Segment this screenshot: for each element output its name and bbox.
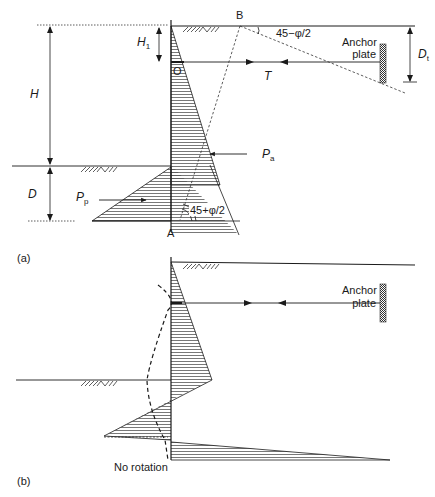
anchor-label-b-1: Anchor (342, 285, 376, 296)
label-h1: H1 (137, 36, 150, 51)
soil-hatch-dredge (81, 167, 117, 172)
label-h1-sub: 1 (146, 42, 150, 51)
point-a-label: A (167, 228, 174, 239)
anchor-label-a-1: Anchor (342, 37, 376, 48)
soil-hatch-top (183, 27, 219, 32)
soil-hatch-b-dredge (81, 381, 117, 386)
label-t: T (264, 70, 271, 82)
angle-label-bottom: 45+φ/2 (189, 205, 226, 216)
diagram-graphics (0, 0, 435, 497)
no-rotation-label: No rotation (114, 462, 168, 473)
angle-label-top: 45−φ/2 (275, 28, 312, 39)
point-o-label: O (173, 66, 182, 77)
label-pp-main: P (76, 190, 84, 204)
angle-arc-top (258, 27, 259, 34)
panel-a-label: (a) (17, 253, 30, 264)
tie-rod-arrow-right (246, 59, 254, 65)
passive-pressure-b (104, 400, 171, 440)
label-h: H (30, 88, 39, 100)
label-pa-main: P (262, 147, 270, 161)
label-pp-sub: p (84, 197, 88, 206)
passive-pressure-diagram (92, 167, 171, 221)
anchor-label-a-2: plate (352, 49, 376, 60)
ground-surface-b (171, 262, 415, 265)
tie-rod-arrow-left (280, 59, 288, 65)
soil-hatch-b-top (183, 264, 219, 269)
anchor-plate-b (380, 284, 386, 322)
label-dt-main: D (418, 47, 427, 61)
label-h1-main: H (137, 35, 146, 49)
anchored-sheet-pile-diagram: H H1 D Dt B A O T Pa Pp 45−φ/2 45+φ/2 An… (0, 0, 435, 497)
anchor-label-b-2: plate (352, 298, 376, 309)
point-b-label: B (236, 10, 243, 21)
label-dt-sub: t (427, 54, 429, 63)
label-dt: Dt (418, 48, 429, 63)
label-d: D (28, 188, 37, 200)
anchor-plate (380, 44, 386, 83)
active-pressure-diagram (171, 26, 220, 185)
panel-b-label: (b) (17, 476, 30, 487)
label-pa-sub: a (270, 154, 274, 163)
label-pa: Pa (262, 148, 274, 163)
label-pp: Pp (76, 191, 88, 206)
